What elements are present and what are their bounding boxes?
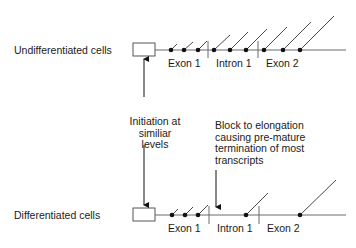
annotation-line: Block to elongation [215,120,305,132]
polymerase-transcripts [172,180,336,215]
annotation-line: transcripts [215,155,305,167]
initiation-annotation: Initiation at similiar levels [125,116,185,151]
region-label-intron1: Intron 1 [217,222,253,234]
promoter-box [133,43,155,56]
block-annotation: Block to elongation causing pre-mature t… [215,120,305,166]
region-label-intron1: Intron 1 [216,57,252,69]
row-label-undifferentiated: Undifferentiated cells [14,44,112,56]
promoter-box [133,208,155,221]
gene-row-undifferentiated [133,16,346,58]
region-label-exon2: Exon 2 [267,222,300,234]
annotation-line: similiar levels [125,128,185,151]
annotation-line: Initiation at [125,116,185,128]
region-label-exon1: Exon 1 [168,222,201,234]
polymerase-transcripts [171,16,334,50]
region-label-exon2: Exon 2 [266,57,299,69]
annotation-line: termination of most [215,143,305,155]
region-label-exon1: Exon 1 [168,57,201,69]
row-label-differentiated: Differentiated cells [14,209,100,221]
gene-row-differentiated [133,180,346,224]
